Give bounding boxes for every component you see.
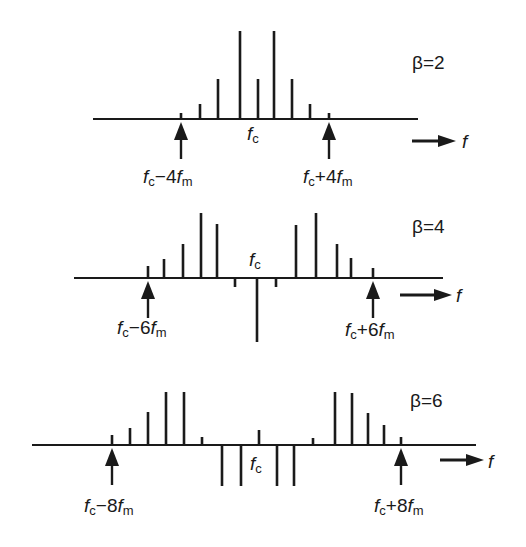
frequency-axis-label: f xyxy=(462,131,469,152)
lower-sideband-marker-label: fc−6fm xyxy=(117,317,167,340)
frequency-direction-arrow-icon xyxy=(400,289,452,301)
upper-marker-arrow-icon xyxy=(394,448,408,485)
fm-spectra-figure: β=2 fc fc−4fm fc+4fm f β=4 fc fc−6fm fc+… xyxy=(0,0,526,547)
upper-sideband-marker-label: fc+8fm xyxy=(374,495,424,518)
panel-beta-6: β=6 fc fc−8fm fc+8fm f xyxy=(84,390,495,518)
lower-sideband-marker-label: fc−4fm xyxy=(143,166,193,189)
beta-label: β=6 xyxy=(410,390,443,411)
lower-sideband-marker-label: fc−8fm xyxy=(84,495,134,518)
beta-label: β=2 xyxy=(412,52,445,73)
frequency-axis-label: f xyxy=(456,285,463,306)
upper-marker-arrow-icon xyxy=(366,281,380,318)
carrier-label: fc xyxy=(247,123,259,146)
upper-sideband-marker-label: fc+4fm xyxy=(303,166,353,189)
lower-marker-arrow-icon xyxy=(141,281,155,318)
beta-label: β=4 xyxy=(412,216,445,237)
carrier-label: fc xyxy=(250,453,262,476)
upper-sideband-marker-label: fc+6fm xyxy=(345,319,395,342)
frequency-axis-label: f xyxy=(488,451,495,472)
frequency-direction-arrow-icon xyxy=(412,135,456,147)
upper-marker-arrow-icon xyxy=(322,122,336,159)
panel-beta-2: β=2 fc fc−4fm fc+4fm f xyxy=(143,52,469,189)
lower-marker-arrow-icon xyxy=(174,122,188,159)
lower-marker-arrow-icon xyxy=(105,448,119,485)
spectrum-1 xyxy=(93,31,456,159)
carrier-label: fc xyxy=(249,249,261,272)
frequency-direction-arrow-icon xyxy=(440,454,484,466)
